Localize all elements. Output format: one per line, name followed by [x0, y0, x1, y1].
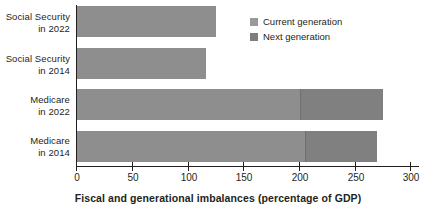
bar-social-security-2022: [77, 6, 216, 37]
y-axis-label-social-security-2014: Social Security in 2014: [6, 53, 70, 76]
x-axis-tick: [355, 162, 356, 171]
chart-figure: Social Security in 2022 Social Security …: [0, 0, 436, 222]
legend-item-current-generation: Current generation: [250, 16, 342, 29]
x-axis-tick: [132, 162, 133, 171]
x-axis-tick-label: 200: [292, 172, 309, 183]
y-axis-label-line1: Social Security: [6, 53, 70, 64]
plot-area: [77, 5, 410, 166]
y-axis-labels: Social Security in 2022 Social Security …: [0, 0, 74, 170]
x-axis-title: Fiscal and generational imbalances (perc…: [0, 192, 436, 204]
x-axis-line: [76, 166, 419, 167]
y-axis-label-medicare-2022: Medicare in 2022: [30, 94, 70, 117]
y-axis-label-line2: in 2014: [6, 65, 70, 77]
legend-label: Next generation: [263, 31, 330, 44]
bar-segment-next-generation: [300, 89, 383, 120]
bar-segment-next-generation: [305, 131, 377, 162]
x-axis-tick-label: 100: [181, 172, 198, 183]
y-axis-label-line1: Social Security: [6, 11, 70, 22]
bar-social-security-2014: [77, 48, 206, 79]
legend-item-next-generation: Next generation: [250, 31, 342, 44]
y-axis-label-social-security-2022: Social Security in 2022: [6, 11, 70, 34]
bar-segment-current-generation: [77, 6, 216, 37]
x-axis-tick: [243, 162, 244, 171]
y-axis-label-line1: Medicare: [30, 94, 70, 105]
y-axis-label-line2: in 2014: [30, 147, 70, 159]
legend-swatch-icon: [250, 33, 258, 41]
legend-label: Current generation: [263, 16, 342, 29]
chart-legend: Current generation Next generation: [250, 16, 342, 45]
x-axis-tick: [410, 162, 411, 171]
x-axis-tick-label: 50: [127, 172, 138, 183]
x-axis-tick-label: 300: [403, 172, 420, 183]
y-axis-label-line2: in 2022: [6, 23, 70, 35]
bar-medicare-2022: [77, 89, 383, 120]
x-axis-tick-label: 250: [348, 172, 365, 183]
bar-segment-current-generation: [77, 131, 305, 162]
y-axis-label-line2: in 2022: [30, 106, 70, 118]
x-axis-tick: [299, 162, 300, 171]
x-axis-tick-label: 150: [236, 172, 253, 183]
bar-segment-current-generation: [77, 48, 206, 79]
bar-medicare-2014: [77, 131, 377, 162]
x-axis-tick: [76, 162, 77, 171]
x-axis-tick-label: 0: [74, 172, 80, 183]
y-axis-line: [76, 5, 77, 167]
legend-swatch-icon: [250, 18, 258, 26]
bar-segment-current-generation: [77, 89, 300, 120]
y-axis-label-medicare-2014: Medicare in 2014: [30, 135, 70, 158]
y-axis-label-line1: Medicare: [30, 135, 70, 146]
x-axis-tick: [188, 162, 189, 171]
